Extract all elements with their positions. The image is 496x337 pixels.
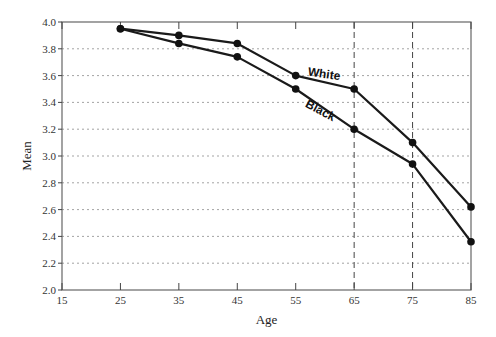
data-point-black: [409, 160, 417, 168]
data-point-white: [409, 139, 417, 147]
x-tick-label: 75: [407, 294, 419, 306]
x-tick-label: 55: [290, 294, 302, 306]
x-tick-label: 45: [232, 294, 244, 306]
series-line-white: [120, 29, 471, 207]
data-point-white: [175, 32, 183, 40]
data-point-black: [467, 238, 475, 246]
data-point-white: [292, 72, 300, 80]
y-tick-label: 2.6: [42, 204, 56, 216]
x-tick-label: 65: [349, 294, 361, 306]
y-tick-label: 2.8: [42, 177, 56, 189]
y-tick-label: 2.0: [42, 284, 56, 296]
y-tick-label: 3.0: [42, 150, 56, 162]
data-point-white: [467, 203, 475, 211]
x-tick-label: 25: [115, 294, 127, 306]
data-point-black: [292, 85, 300, 93]
x-tick-label: 85: [466, 294, 478, 306]
y-tick-label: 3.8: [42, 43, 56, 55]
data-point-black: [175, 40, 183, 48]
y-tick-label: 3.2: [42, 123, 56, 135]
series: [117, 25, 475, 246]
y-tick-label: 4.0: [42, 16, 56, 28]
y-tick-label: 3.4: [42, 96, 56, 108]
series-labels: WhiteBlack: [303, 65, 342, 125]
y-axis-ticks: 2.02.22.42.62.83.03.23.43.63.84.0: [42, 16, 62, 296]
y-tick-label: 3.6: [42, 70, 56, 82]
data-point-white: [350, 85, 358, 93]
x-axis-title: Age: [256, 312, 278, 327]
data-point-white: [233, 40, 241, 48]
line-chart: 1525354555657585 2.02.22.42.62.83.03.23.…: [0, 0, 496, 337]
data-point-black: [117, 25, 125, 33]
data-point-black: [233, 53, 241, 61]
x-tick-label: 15: [57, 294, 69, 306]
series-label-black: Black: [303, 97, 338, 125]
grid-lines: [62, 49, 471, 263]
y-axis-title: Mean: [19, 141, 34, 171]
y-tick-label: 2.4: [42, 230, 56, 242]
x-tick-label: 35: [173, 294, 185, 306]
data-point-black: [350, 125, 358, 133]
y-tick-label: 2.2: [42, 257, 56, 269]
